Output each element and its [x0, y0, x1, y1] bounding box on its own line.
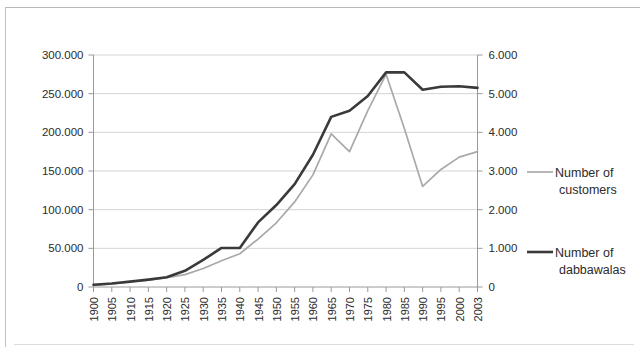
x-axis-tick-label: 1975: [362, 297, 374, 321]
x-axis-tick-label: 1995: [435, 297, 447, 321]
y-axis-right-tick-label: 1.000: [489, 242, 518, 254]
x-axis-tick-label: 1945: [253, 297, 265, 321]
y-axis-left-tick-label: 300.000: [42, 49, 84, 61]
x-axis-tick-label: 2003: [472, 297, 484, 321]
legend-label-customers-line2: customers: [559, 183, 617, 197]
legend-label-dabbawalas-line2: dabbawalas: [559, 263, 626, 277]
x-axis-tick-label: 1985: [399, 297, 411, 321]
x-axis-tick-label: 1935: [216, 297, 228, 321]
x-axis-tick-label: 1990: [417, 297, 429, 321]
x-axis-tick-label: 1910: [125, 297, 137, 321]
y-axis-left-tick-label: 0: [77, 281, 83, 293]
y-axis-right-tick-label: 5.000: [489, 88, 518, 100]
x-axis-tick-label: 1930: [198, 297, 210, 321]
x-axis-tick-label: 1900: [88, 297, 100, 321]
series-line-number-of-customers: [94, 74, 478, 285]
x-axis-tick-label: 1950: [271, 297, 283, 321]
y-axis-right-ticks: 01.0002.0003.0004.0005.0006.000: [478, 49, 518, 293]
chart-legend: Number ofcustomersNumber ofdabbawalas: [527, 166, 626, 277]
x-axis-tick-label: 1915: [143, 297, 155, 321]
y-axis-left-tick-label: 200.000: [42, 126, 84, 138]
x-axis-tick-label: 1960: [307, 297, 319, 321]
y-axis-left-tick-label: 150.000: [42, 165, 84, 177]
x-axis-ticks: 1900190519101915192019251930193519401945…: [88, 287, 484, 321]
chart-container: 050.000100.000150.000200.000250.000300.0…: [0, 0, 644, 352]
x-axis-tick-label: 1970: [344, 297, 356, 321]
line-chart-plot: 050.000100.000150.000200.000250.000300.0…: [0, 0, 644, 352]
y-axis-right-tick-label: 2.000: [489, 204, 518, 216]
y-axis-right-tick-label: 4.000: [489, 126, 518, 138]
x-axis-tick-label: 1955: [289, 297, 301, 321]
y-axis-right-tick-label: 3.000: [489, 165, 518, 177]
legend-label-customers-line1: Number of: [555, 166, 614, 180]
gridlines: [94, 55, 478, 248]
x-axis-tick-label: 1920: [161, 297, 173, 321]
y-axis-left-tick-label: 100.000: [42, 204, 84, 216]
y-axis-left-ticks: 050.000100.000150.000200.000250.000300.0…: [42, 49, 94, 293]
data-series: [94, 72, 478, 285]
x-axis-tick-label: 1965: [326, 297, 338, 321]
x-axis-tick-label: 1925: [179, 297, 191, 321]
x-axis-tick-label: 1905: [106, 297, 118, 321]
y-axis-left-tick-label: 250.000: [42, 88, 84, 100]
x-axis-tick-label: 1940: [234, 297, 246, 321]
y-axis-right-tick-label: 6.000: [489, 49, 518, 61]
x-axis-tick-label: 2000: [454, 297, 466, 321]
y-axis-right-tick-label: 0: [489, 281, 495, 293]
legend-label-dabbawalas-line1: Number of: [555, 246, 614, 260]
x-axis-tick-label: 1980: [381, 297, 393, 321]
y-axis-left-tick-label: 50.000: [48, 242, 83, 254]
